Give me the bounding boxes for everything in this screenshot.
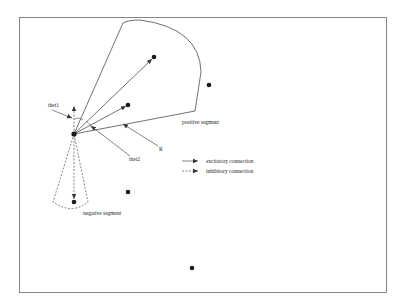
legend-excitatory-label: excitatory connection: [206, 158, 254, 164]
negative-segment-label: negative segment: [83, 210, 122, 216]
excitatory-connection-1: [74, 59, 152, 134]
theta2-pointer: [91, 126, 130, 156]
legend-inhibitory-label: inhibitory connection: [206, 168, 253, 174]
theta1-pointer: [52, 110, 72, 118]
radius-pointer: [123, 124, 158, 146]
positive-segment-sector: [74, 20, 201, 134]
diagram-canvas: thet1 thet2 R positive segment negative …: [0, 0, 405, 307]
excitatory-connection-2: [74, 106, 126, 134]
theta1-arc: [74, 118, 83, 120]
theta2-label: thet2: [129, 156, 140, 162]
node: [190, 266, 195, 271]
positive-segment-label: positive segment: [182, 119, 220, 125]
diagram-border: [20, 18, 387, 293]
node: [72, 200, 77, 205]
negative-segment-sector: [53, 134, 88, 209]
radius-label: R: [159, 146, 163, 152]
center-node: [71, 131, 76, 136]
node: [126, 103, 131, 108]
theta1-label: thet1: [48, 102, 59, 108]
node: [207, 83, 212, 88]
node: [126, 190, 131, 195]
legend: excitatory connection inhibitory connect…: [182, 158, 254, 174]
node: [152, 55, 157, 60]
